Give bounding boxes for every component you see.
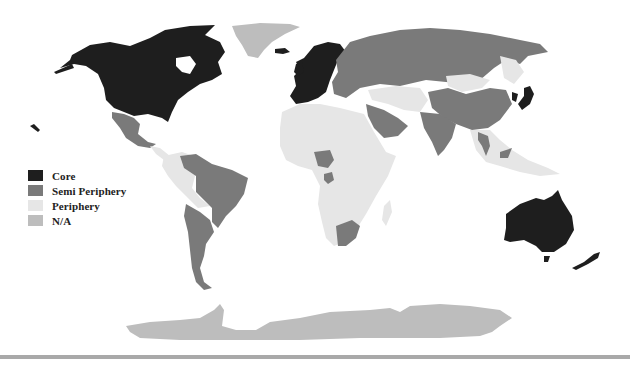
map-legend: Core Semi Periphery Periphery N/A [28, 168, 126, 228]
legend-label-semi-periphery: Semi Periphery [52, 185, 126, 197]
legend-item-semi-periphery: Semi Periphery [28, 183, 126, 198]
region-north-america[interactable] [60, 25, 225, 122]
legend-label-core: Core [52, 170, 75, 182]
legend-swatch-periphery [28, 200, 43, 211]
region-argentina-chile[interactable] [184, 204, 214, 290]
legend-item-na: N/A [28, 213, 126, 228]
region-tasmania [544, 256, 550, 262]
region-greenland[interactable] [232, 23, 300, 58]
legend-item-core: Core [28, 168, 126, 183]
legend-swatch-na [28, 215, 43, 226]
region-iceland[interactable] [275, 48, 290, 54]
legend-swatch-core [28, 170, 43, 181]
region-korea[interactable] [512, 92, 518, 102]
region-mexico[interactable] [112, 112, 156, 148]
region-australia[interactable] [504, 190, 574, 252]
legend-item-periphery: Periphery [28, 198, 126, 213]
region-antarctica[interactable] [126, 304, 512, 340]
region-japan[interactable] [518, 86, 534, 110]
world-map: Core Semi Periphery Periphery N/A [0, 0, 630, 366]
region-madagascar[interactable] [382, 200, 392, 226]
legend-label-periphery: Periphery [52, 200, 100, 212]
legend-label-na: N/A [52, 215, 71, 227]
bottom-divider [0, 355, 630, 359]
region-new-zealand[interactable] [572, 252, 600, 270]
region-pacific-island [30, 124, 40, 132]
legend-swatch-semi-periphery [28, 185, 43, 196]
